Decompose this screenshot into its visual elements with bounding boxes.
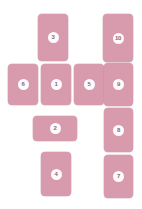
card-number-badge: 1 xyxy=(51,79,62,90)
card-tile-6[interactable]: 6 xyxy=(8,64,38,105)
card-tile-1[interactable]: 1 xyxy=(41,64,71,105)
card-tile-7[interactable]: 7 xyxy=(104,155,133,198)
card-number-badge: 4 xyxy=(51,169,62,180)
card-number-badge: 6 xyxy=(18,79,29,90)
card-tile-2[interactable]: 2 xyxy=(33,116,77,141)
card-number-badge: 10 xyxy=(113,33,124,44)
card-board: 31061592847 xyxy=(0,0,142,209)
card-number-badge: 5 xyxy=(84,79,95,90)
card-tile-4[interactable]: 4 xyxy=(41,152,71,196)
card-tile-8[interactable]: 8 xyxy=(104,108,133,152)
card-tile-9[interactable]: 9 xyxy=(104,63,133,106)
card-tile-5[interactable]: 5 xyxy=(74,64,104,105)
card-tile-10[interactable]: 10 xyxy=(103,14,133,62)
card-number-badge: 8 xyxy=(113,125,124,136)
card-number-badge: 7 xyxy=(113,171,124,182)
card-tile-3[interactable]: 3 xyxy=(38,14,68,61)
card-number-badge: 3 xyxy=(48,32,59,43)
card-number-badge: 9 xyxy=(113,79,124,90)
card-number-badge: 2 xyxy=(50,123,61,134)
